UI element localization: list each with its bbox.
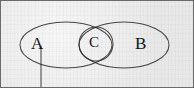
label-set-a: A xyxy=(31,35,43,52)
label-set-c: C xyxy=(89,35,99,50)
venn-diagram-figure: A C B xyxy=(0,0,194,88)
label-set-b: B xyxy=(135,35,146,52)
